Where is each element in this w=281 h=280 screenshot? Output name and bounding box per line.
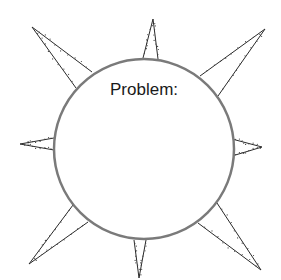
ray-left — [20, 137, 54, 150]
sun-diagram: Problem: — [0, 0, 281, 280]
ray-right — [232, 139, 262, 157]
problem-label: Problem: — [94, 80, 194, 100]
ray-top-left — [32, 27, 92, 88]
ray-top — [143, 19, 159, 59]
ray-bottom-left — [29, 205, 88, 264]
diagram-canvas — [0, 0, 281, 280]
ray-bottom — [134, 240, 147, 278]
